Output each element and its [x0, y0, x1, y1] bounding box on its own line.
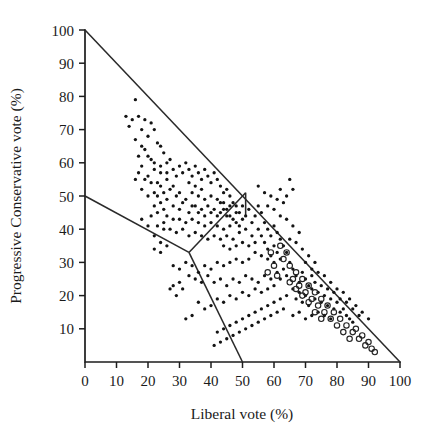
- data-point-filled: [250, 221, 253, 224]
- x-axis-tick-labels: 0102030405060708090100: [81, 373, 411, 389]
- data-point-filled: [162, 228, 165, 231]
- data-point-filled: [153, 247, 156, 250]
- data-point-filled: [213, 281, 216, 284]
- data-point-filled: [190, 264, 193, 267]
- data-point-filled: [153, 234, 156, 237]
- x-tick-label: 10: [109, 373, 124, 389]
- data-point-filled: [165, 214, 168, 217]
- data-point-filled: [235, 257, 238, 260]
- data-point-filled: [329, 281, 332, 284]
- data-point-filled: [172, 168, 175, 171]
- data-point-filled: [168, 188, 171, 191]
- data-point-filled: [216, 297, 219, 300]
- data-point-filled: [342, 307, 345, 310]
- data-point-filled: [266, 257, 269, 260]
- data-point-filled: [250, 277, 253, 280]
- data-point-filled: [209, 181, 212, 184]
- data-point-filled: [241, 291, 244, 294]
- data-point-filled: [178, 164, 181, 167]
- data-point-filled: [175, 294, 178, 297]
- data-point-filled: [257, 321, 260, 324]
- data-point-filled: [241, 317, 244, 320]
- y-tick-label: 50: [59, 189, 74, 205]
- data-point-filled: [187, 181, 190, 184]
- data-point-filled: [175, 231, 178, 234]
- data-point-filled: [238, 224, 241, 227]
- data-point-filled: [235, 321, 238, 324]
- data-point-filled: [181, 228, 184, 231]
- data-point-filled: [282, 267, 285, 270]
- y-axis-ticks: [79, 30, 85, 329]
- x-tick-label: 30: [172, 373, 187, 389]
- data-point-filled: [250, 234, 253, 237]
- data-point-filled: [194, 231, 197, 234]
- data-point-filled: [203, 224, 206, 227]
- data-point-filled: [209, 194, 212, 197]
- data-point-filled: [225, 337, 228, 340]
- data-point-filled: [168, 158, 171, 161]
- data-point-filled: [222, 228, 225, 231]
- data-point-filled: [150, 158, 153, 161]
- data-point-filled: [165, 161, 168, 164]
- data-point-filled: [219, 340, 222, 343]
- x-tick-label: 70: [298, 373, 313, 389]
- data-point-filled: [294, 241, 297, 244]
- data-point-filled: [291, 188, 294, 191]
- data-point-filled: [216, 214, 219, 217]
- data-point-filled: [282, 307, 285, 310]
- data-point-filled: [228, 194, 231, 197]
- data-point-filled: [194, 184, 197, 187]
- data-point-filled: [159, 145, 162, 148]
- y-axis-tick-labels: 102030405060708090100: [52, 23, 75, 338]
- data-point-filled: [266, 228, 269, 231]
- data-point-filled: [231, 218, 234, 221]
- data-point-filled: [213, 234, 216, 237]
- x-tick-label: 100: [389, 373, 412, 389]
- data-point-filled: [137, 115, 140, 118]
- data-point-filled: [225, 284, 228, 287]
- data-point-filled: [225, 208, 228, 211]
- data-point-filled: [222, 244, 225, 247]
- data-point-filled: [190, 218, 193, 221]
- partition-lines: [85, 193, 246, 362]
- data-point-open: [347, 336, 352, 341]
- data-point-filled: [156, 181, 159, 184]
- data-point-filled: [194, 204, 197, 207]
- data-point-filled: [206, 274, 209, 277]
- data-point-filled: [159, 184, 162, 187]
- data-point-filled: [203, 264, 206, 267]
- data-point-filled: [279, 188, 282, 191]
- data-point-filled: [253, 311, 256, 314]
- data-point-filled: [156, 211, 159, 214]
- data-point-filled: [301, 271, 304, 274]
- data-point-filled: [172, 218, 175, 221]
- y-tick-label: 60: [59, 155, 74, 171]
- data-point-filled: [257, 184, 260, 187]
- data-point-open: [337, 316, 342, 321]
- data-point-filled: [326, 304, 329, 307]
- data-point-filled: [228, 294, 231, 297]
- data-point-filled: [260, 307, 263, 310]
- data-point-filled: [285, 274, 288, 277]
- data-point-filled: [206, 204, 209, 207]
- data-point-filled: [323, 274, 326, 277]
- data-point-filled: [153, 191, 156, 194]
- data-point-filled: [225, 214, 228, 217]
- data-point-filled: [181, 201, 184, 204]
- data-point-filled: [231, 277, 234, 280]
- data-point-filled: [247, 257, 250, 260]
- data-point-filled: [329, 317, 332, 320]
- scatter-chart: 0102030405060708090100 10203040506070809…: [0, 0, 444, 436]
- data-point-filled: [231, 238, 234, 241]
- data-point-filled: [276, 251, 279, 254]
- data-point-filled: [140, 188, 143, 191]
- data-point-filled: [294, 297, 297, 300]
- data-point-filled: [162, 191, 165, 194]
- data-point-filled: [279, 238, 282, 241]
- data-point-filled: [354, 304, 357, 307]
- data-point-open: [319, 316, 324, 321]
- data-point-filled: [140, 145, 143, 148]
- data-point-filled: [165, 171, 168, 174]
- data-point-filled: [172, 204, 175, 207]
- data-point-open: [315, 303, 320, 308]
